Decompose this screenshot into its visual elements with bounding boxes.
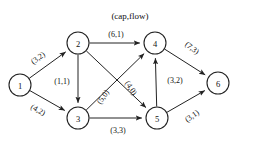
- edge-5-to-4: [155, 58, 156, 106]
- edge-label-5-to-4: (3,2): [167, 76, 183, 85]
- node-label-2: 2: [76, 39, 80, 49]
- flow-network-diagram: (cap,flow) (3,2)(4,2)(1,1)(6,1)(4,0)(5,0…: [0, 0, 260, 143]
- edge-label-1-to-2: (3,2): [29, 50, 47, 66]
- node-2[interactable]: 2: [67, 32, 89, 54]
- node-4[interactable]: 4: [144, 32, 166, 54]
- edge-label-4-to-6: (7,3): [183, 40, 201, 57]
- node-5[interactable]: 5: [146, 107, 168, 129]
- edge-label-1-to-3: (4,2): [29, 102, 47, 117]
- edge-label-3-to-4: (5,0): [95, 88, 111, 106]
- node-3[interactable]: 3: [67, 107, 89, 129]
- node-label-3: 3: [76, 114, 80, 124]
- edge-4-to-6: [165, 49, 205, 75]
- edge-label-2-to-3: (1,1): [54, 77, 70, 86]
- node-label-5: 5: [155, 114, 159, 124]
- node-6[interactable]: 6: [207, 72, 229, 94]
- node-1[interactable]: 1: [9, 74, 31, 96]
- edge-label-5-to-6: (3,1): [183, 108, 201, 124]
- node-label-1: 1: [18, 81, 22, 91]
- edge-label-3-to-5: (3,3): [110, 126, 126, 135]
- graph-canvas: (cap,flow) (3,2)(4,2)(1,1)(6,1)(4,0)(5,0…: [0, 0, 260, 143]
- edge-5-to-6: [167, 91, 205, 113]
- node-label-6: 6: [216, 79, 220, 89]
- diagram-title: (cap,flow): [111, 11, 148, 21]
- edge-label-2-to-4: (6,1): [108, 30, 124, 39]
